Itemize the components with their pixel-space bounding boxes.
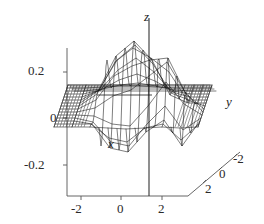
x-tick-label-pos2: 2 xyxy=(158,202,165,215)
y-tick-label-pos2: 2 xyxy=(205,182,212,195)
mesh-col xyxy=(117,48,131,150)
mesh-col xyxy=(108,56,122,148)
mesh-row xyxy=(56,120,200,152)
x-axis-ticks xyxy=(81,196,162,200)
z-axis-ticks xyxy=(63,72,67,165)
mesh-row xyxy=(63,45,207,100)
surface-mesh xyxy=(54,41,216,152)
mesh-row xyxy=(54,127,198,129)
x-tick-label-neg2: -2 xyxy=(71,202,82,215)
z-tick-label-zero: 0 xyxy=(50,111,57,124)
surface-plot-canvas xyxy=(0,0,264,224)
mesh-col xyxy=(171,76,185,133)
y-axis-name: y xyxy=(226,95,232,108)
z-tick-label-upper: 0.2 xyxy=(28,64,44,77)
mesh-row xyxy=(61,48,205,106)
mesh-col xyxy=(99,60,113,146)
x-tick-label-zero: 0 xyxy=(117,202,124,215)
z-axis-name: z xyxy=(144,10,149,23)
surface-plot-figure: 0.2 0 -0.2 -2 0 2 2 0 -2 z x y xyxy=(0,0,264,224)
mesh-col xyxy=(153,59,167,127)
y-tick-label-zero: 0 xyxy=(219,167,226,180)
y-tick-label-neg2: -2 xyxy=(233,152,244,165)
x-axis-name: x xyxy=(108,137,114,150)
z-tick-label-lower: -0.2 xyxy=(24,158,45,171)
plane-edge-shading-left xyxy=(54,85,98,127)
